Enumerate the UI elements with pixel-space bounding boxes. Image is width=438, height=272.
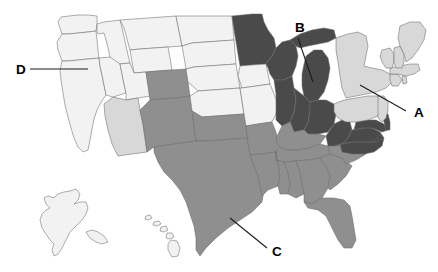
state-montana[interactable] [120,16,182,50]
state-kansas[interactable] [190,88,244,117]
us-choropleth-map-figure: A B C D [0,0,438,272]
state-alaska[interactable] [40,189,108,256]
state-washington[interactable] [58,15,97,34]
callout-label-d: D [16,62,26,77]
state-arkansas[interactable] [246,122,278,155]
state-new-york[interactable] [336,32,392,98]
state-nebraska[interactable] [186,64,240,91]
callout-label-c: C [272,244,282,259]
callout-label-a: A [414,105,424,120]
state-california[interactable] [60,58,106,152]
state-minnesota[interactable] [232,14,276,66]
state-vermont[interactable] [380,48,394,68]
state-pennsylvania[interactable] [334,96,380,122]
state-arizona[interactable] [104,97,147,156]
state-hawaii[interactable] [145,215,180,257]
state-rhode-island[interactable] [402,76,407,84]
us-map-svg: A B C D [0,0,438,272]
state-missouri[interactable] [240,84,278,126]
state-connecticut[interactable] [390,74,402,86]
state-wyoming[interactable] [130,47,172,73]
state-colorado[interactable] [146,69,190,100]
state-iowa[interactable] [238,64,270,88]
leader-line-c [230,218,267,248]
callout-label-b: B [295,20,305,35]
state-massachusetts[interactable] [390,64,420,76]
state-oregon[interactable] [57,31,99,61]
state-florida[interactable] [304,198,356,248]
